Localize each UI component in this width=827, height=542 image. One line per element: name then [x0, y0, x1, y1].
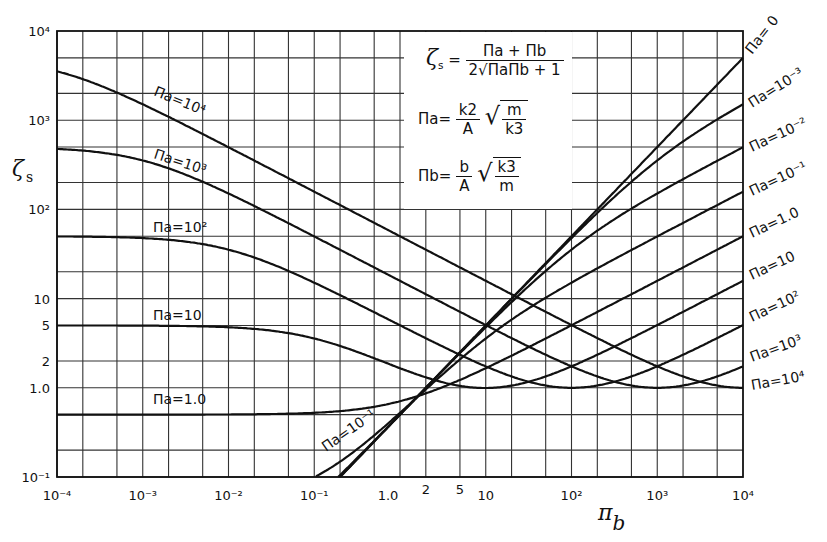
curve-label: Πa=10: [747, 248, 798, 283]
x-tick-label: 2: [422, 482, 430, 497]
zeta-equation: ζs = Πa + Πb2√ΠaΠb + 1: [426, 42, 564, 79]
curve-label: Πa=10⁴: [750, 368, 807, 393]
pi-a-equation: Πa= k2A √mk3: [418, 100, 528, 138]
y-axis-ticks: 10⁴10³10²10521.010⁻¹: [21, 24, 50, 485]
curve-label: Πa=10³: [748, 331, 804, 365]
x-tick-label: 1.0: [378, 488, 399, 503]
curve-label: Πa= 0: [742, 12, 782, 57]
x-tick-label: 10⁻²: [214, 488, 243, 503]
y-tick-label: 10⁴: [28, 24, 50, 39]
x-tick-label: 10³: [646, 488, 668, 503]
curve-label: Πa=10⁻²: [747, 114, 810, 155]
y-tick-label: 10³: [28, 113, 50, 128]
x-tick-label: 10⁻⁴: [43, 488, 72, 503]
x-tick-label: 10²: [561, 488, 583, 503]
curve-label: Πa=10: [153, 307, 202, 323]
x-tick-label: 10⁻³: [128, 488, 157, 503]
curve-label: Πa=1.0: [153, 391, 206, 407]
pi-b-equation: Πb= bA √k3m: [418, 157, 521, 195]
x-axis-title: πb: [597, 500, 625, 535]
curve-label: Πa=10²: [747, 287, 803, 324]
y-tick-label: 10²: [28, 202, 50, 217]
x-tick-label: 10⁴: [732, 488, 754, 503]
x-tick-label: 5: [456, 482, 464, 497]
curve-label: Πa=10⁻¹: [747, 158, 810, 199]
curve-label: Πa=10⁻³: [745, 64, 806, 110]
y-tick-label: 10⁻¹: [21, 470, 50, 485]
y-tick-label: 5: [42, 318, 50, 333]
y-tick-label: 2: [42, 354, 50, 369]
curve-label: Πa=10²: [153, 219, 207, 235]
equation-box: ζs = Πa + Πb2√ΠaΠb + 1 Πa= k2A √mk3 Πb= …: [404, 32, 572, 209]
y-tick-label: 10: [33, 292, 50, 307]
x-tick-label: 10⁻¹: [300, 488, 329, 503]
x-tick-label: 10: [477, 488, 494, 503]
y-axis-title: ζs: [12, 156, 33, 185]
x-axis-ticks: 10⁻⁴10⁻³10⁻²10⁻¹1.0251010²10³10⁴: [43, 482, 754, 503]
curve-label: Πa=1.0: [747, 204, 802, 241]
y-tick-label: 1.0: [29, 381, 50, 396]
